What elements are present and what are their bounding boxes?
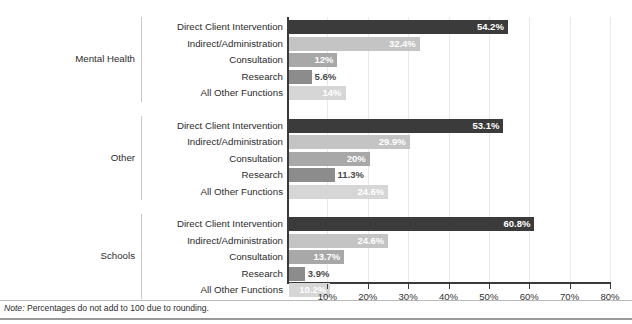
category-label: All Other Functions	[143, 86, 283, 100]
bar-row[interactable]: 32.4%	[287, 37, 610, 51]
x-tick	[368, 284, 369, 289]
category-label: All Other Functions	[143, 185, 283, 199]
group-name-label: Mental Health	[25, 53, 135, 64]
bar-value-label: 13.7%	[313, 250, 340, 264]
bar-value-label: 60.8%	[504, 217, 531, 231]
bar-row[interactable]: 11.3%	[287, 168, 610, 182]
group-name-label: Other	[25, 152, 135, 163]
category-label: Indirect/Administration	[143, 135, 283, 149]
footnote-rule-bottom	[0, 318, 632, 320]
bar-value-label: 24.6%	[357, 234, 384, 248]
x-tick	[489, 284, 490, 289]
bar[interactable]	[289, 20, 508, 34]
footnote-prefix: Note:	[4, 303, 25, 313]
group-separator	[141, 214, 142, 299]
group-category-labels: Direct Client InterventionIndirect/Admin…	[143, 217, 283, 300]
bar[interactable]	[289, 119, 503, 133]
bar[interactable]	[289, 168, 335, 182]
x-tick	[529, 284, 530, 289]
category-label: Direct Client Intervention	[143, 20, 283, 34]
bar-value-label: 20%	[347, 152, 366, 166]
bar-row[interactable]: 12%	[287, 53, 610, 67]
category-label: All Other Functions	[143, 283, 283, 297]
x-tick	[408, 284, 409, 289]
bar-row[interactable]: 24.6%	[287, 234, 610, 248]
group-category-labels: Direct Client InterventionIndirect/Admin…	[143, 20, 283, 103]
bar[interactable]	[289, 70, 312, 84]
bar-row[interactable]: 54.2%	[287, 20, 610, 34]
bar-value-label: 32.4%	[389, 37, 416, 51]
bar-row[interactable]: 29.9%	[287, 135, 610, 149]
bar-group: 53.1%29.9%20%11.3%24.6%	[287, 119, 610, 202]
bar[interactable]	[289, 267, 305, 281]
bar-value-label: 5.6%	[315, 70, 337, 84]
category-label: Indirect/Administration	[143, 234, 283, 248]
x-tick	[570, 284, 571, 289]
group-category-labels: Direct Client InterventionIndirect/Admin…	[143, 119, 283, 202]
footnote-rule-top	[0, 300, 632, 301]
bar-value-label: 11.3%	[338, 168, 364, 182]
group-name-label: Schools	[25, 250, 135, 261]
bar-row[interactable]: 5.6%	[287, 70, 610, 84]
group-separator	[141, 17, 142, 102]
bar-value-label: 12%	[314, 53, 333, 67]
category-label: Consultation	[143, 250, 283, 264]
gridline	[610, 17, 611, 282]
bar-row[interactable]: 3.9%	[287, 267, 610, 281]
bar-row[interactable]: 20%	[287, 152, 610, 166]
bar-value-label: 14%	[323, 86, 342, 100]
category-label: Research	[143, 70, 283, 84]
bar-row[interactable]: 60.8%	[287, 217, 610, 231]
bar-row[interactable]: 14%	[287, 86, 610, 100]
bar-value-label: 54.2%	[477, 20, 504, 34]
footnote: Note: Percentages do not add to 100 due …	[4, 303, 209, 313]
bar-group: 54.2%32.4%12%5.6%14%	[287, 20, 610, 103]
category-label: Indirect/Administration	[143, 37, 283, 51]
category-label: Research	[143, 168, 283, 182]
bar-value-label: 53.1%	[472, 119, 499, 133]
plot-area: 54.2%32.4%12%5.6%14%53.1%29.9%20%11.3%24…	[287, 17, 610, 282]
category-label: Research	[143, 267, 283, 281]
chart-page: Direct Client InterventionIndirect/Admin…	[0, 0, 632, 324]
x-tick	[610, 284, 611, 289]
x-tick	[327, 284, 328, 289]
bar-value-label: 24.6%	[357, 185, 384, 199]
category-label: Direct Client Intervention	[143, 217, 283, 231]
bar[interactable]	[289, 217, 534, 231]
category-label: Direct Client Intervention	[143, 119, 283, 133]
group-separator	[141, 116, 142, 201]
category-label: Consultation	[143, 53, 283, 67]
bar-value-label: 3.9%	[308, 267, 330, 281]
bar-value-label: 29.9%	[379, 135, 406, 149]
category-label: Consultation	[143, 152, 283, 166]
footnote-body: Percentages do not add to 100 due to rou…	[25, 303, 209, 313]
bar-row[interactable]: 13.7%	[287, 250, 610, 264]
bar-row[interactable]: 24.6%	[287, 185, 610, 199]
x-tick	[449, 284, 450, 289]
bar-row[interactable]: 53.1%	[287, 119, 610, 133]
